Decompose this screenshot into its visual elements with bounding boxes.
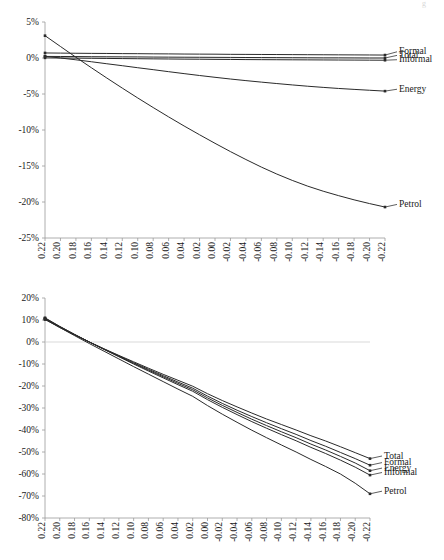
series-line-petrol	[45, 36, 385, 207]
series-start-marker-energy	[44, 55, 47, 58]
x-tick-label: -0.22	[377, 242, 387, 262]
y-tick-label: 20%	[22, 293, 40, 303]
x-tick-label: 0.16	[83, 242, 93, 259]
y-tick-label: -25%	[18, 233, 39, 243]
series-label-petrol: Petrol	[399, 199, 422, 209]
x-tick-label: 0.18	[68, 242, 78, 259]
y-tick-label: -15%	[18, 161, 39, 171]
x-tick-label: 0.22	[37, 242, 47, 259]
x-tick-label: -0.16	[331, 242, 341, 262]
series-leader-formal	[370, 463, 382, 466]
y-tick-label: -30%	[18, 403, 39, 413]
y-tick-label: -80%	[18, 513, 39, 523]
bottom-line-chart: 20%10%0%-10%-20%-30%-40%-50%-60%-70%-80%…	[0, 285, 444, 560]
x-tick-label: 0.08	[145, 242, 155, 259]
x-tick-label: 0.14	[96, 522, 106, 539]
series-line-formal	[45, 53, 385, 55]
top-line-chart: 5%0%-5%-10%-15%-20%-25%0.220.200.180.160…	[0, 0, 444, 285]
y-tick-label: -50%	[18, 447, 39, 457]
series-leader-energy	[370, 468, 382, 471]
x-tick-label: 0.20	[52, 242, 62, 259]
x-tick-label: 0.04	[170, 522, 180, 539]
x-tick-label: 0.16	[81, 522, 91, 539]
x-tick-label: -0.08	[259, 522, 269, 542]
x-tick-label: -0.14	[303, 522, 313, 542]
y-tick-label: -60%	[18, 469, 39, 479]
x-tick-label: 0.02	[185, 522, 195, 539]
series-line-total	[45, 320, 370, 459]
x-tick-label: -0.22	[362, 522, 372, 542]
series-leader-formal	[385, 52, 397, 55]
series-start-marker-petrol	[44, 318, 47, 321]
x-tick-label: 0.00	[200, 522, 210, 539]
series-leader-petrol	[385, 204, 397, 207]
series-leader-informal	[370, 473, 382, 476]
series-line-energy	[45, 318, 370, 470]
x-tick-label: 0.12	[114, 242, 124, 259]
series-line-formal	[45, 319, 370, 466]
x-tick-label: -0.14	[315, 242, 325, 262]
x-tick-label: -0.04	[238, 242, 248, 262]
x-tick-label: -0.06	[253, 242, 263, 262]
y-tick-label: -20%	[18, 197, 39, 207]
series-line-energy	[45, 56, 385, 91]
x-tick-label: 0.04	[176, 242, 186, 259]
y-tick-label: 10%	[22, 315, 40, 325]
x-tick-label: -0.02	[214, 522, 224, 542]
x-tick-label: 0.20	[52, 522, 62, 539]
x-tick-label: 0.18	[67, 522, 77, 539]
series-line-petrol	[45, 319, 370, 494]
x-tick-label: -0.06	[244, 522, 254, 542]
y-tick-label: -10%	[18, 125, 39, 135]
series-leader-total	[370, 456, 382, 459]
series-label-petrol: Petrol	[384, 486, 407, 496]
x-tick-label: 0.22	[37, 522, 47, 539]
x-tick-label: -0.18	[332, 522, 342, 542]
x-tick-label: 0.10	[130, 242, 140, 259]
top-chart-canvas: 5%0%-5%-10%-15%-20%-25%0.220.200.180.160…	[0, 0, 444, 285]
x-tick-label: 0.02	[192, 242, 202, 259]
x-tick-label: 0.00	[207, 242, 217, 259]
series-label-energy: Energy	[399, 84, 427, 94]
y-tick-label: 0%	[26, 53, 39, 63]
x-tick-label: 0.14	[99, 242, 109, 259]
y-tick-label: -10%	[18, 359, 39, 369]
x-tick-label: 0.10	[126, 522, 136, 539]
x-tick-label: 0.12	[111, 522, 121, 539]
series-leader-petrol	[370, 491, 382, 494]
x-tick-label: -0.18	[346, 242, 356, 262]
x-tick-label: -0.10	[284, 242, 294, 262]
bottom-chart-canvas: 20%10%0%-10%-20%-30%-40%-50%-60%-70%-80%…	[0, 285, 444, 560]
x-tick-label: 0.08	[140, 522, 150, 539]
x-tick-label: -0.16	[318, 522, 328, 542]
x-tick-label: -0.12	[288, 522, 298, 542]
y-tick-label: 5%	[26, 17, 39, 27]
x-tick-label: -0.20	[362, 242, 372, 262]
y-tick-label: -20%	[18, 381, 39, 391]
x-tick-label: -0.04	[229, 522, 239, 542]
y-tick-label: 0%	[26, 337, 39, 347]
x-tick-label: 0.06	[155, 522, 165, 539]
series-start-marker-formal	[44, 52, 47, 55]
x-tick-label: -0.02	[222, 242, 232, 262]
y-tick-label: -70%	[18, 491, 39, 501]
x-tick-label: -0.08	[269, 242, 279, 262]
y-tick-label: -5%	[23, 89, 39, 99]
series-start-marker-petrol	[44, 34, 47, 37]
series-leader-informal	[385, 60, 397, 61]
series-leader-energy	[385, 89, 397, 91]
x-tick-label: -0.20	[347, 522, 357, 542]
y-tick-label: -40%	[18, 425, 39, 435]
series-leader-total	[385, 55, 397, 58]
series-label-informal: Informal	[399, 54, 433, 64]
series-label-informal: Informal	[384, 467, 418, 477]
chart-page: g 5%0%-5%-10%-15%-20%-25%0.220.200.180.1…	[0, 0, 444, 560]
x-tick-label: 0.06	[161, 242, 171, 259]
x-tick-label: -0.12	[300, 242, 310, 262]
x-tick-label: -0.10	[273, 522, 283, 542]
